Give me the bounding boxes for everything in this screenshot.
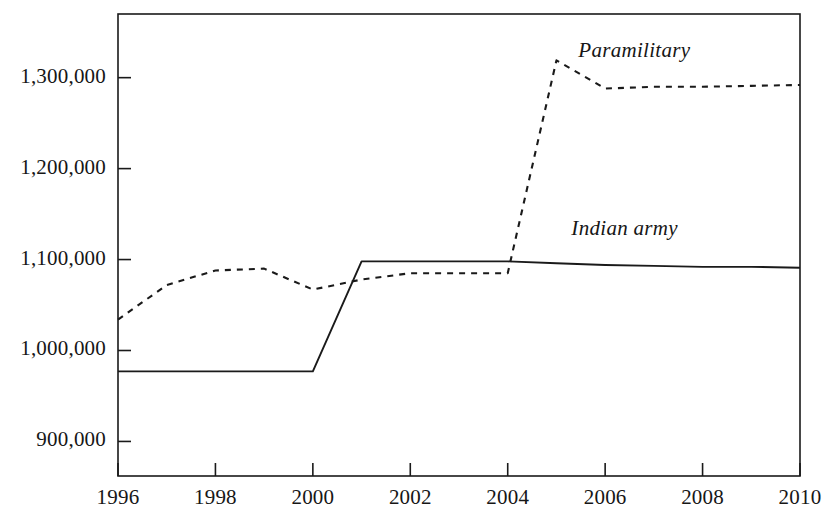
y-axis-ticks: [118, 78, 131, 442]
y-axis-tick-label: 900,000: [36, 427, 106, 452]
x-axis-tick-label: 1998: [175, 485, 255, 510]
data-series-group: [118, 60, 800, 371]
plot-area-border: [118, 14, 800, 476]
x-axis-tick-label: 1996: [78, 485, 158, 510]
chart-container: 900,0001,000,0001,100,0001,200,0001,300,…: [0, 0, 832, 520]
plot-frame: [118, 14, 800, 476]
series-line-indian-army: [118, 261, 800, 371]
series-line-paramilitary: [118, 60, 800, 319]
y-axis-tick-label: 1,200,000: [20, 155, 106, 180]
x-axis-ticks: [118, 463, 800, 476]
x-axis-tick-label: 2010: [760, 485, 832, 510]
x-axis-tick-label: 2008: [663, 485, 743, 510]
x-axis-tick-label: 2000: [273, 485, 353, 510]
y-axis-tick-label: 1,000,000: [20, 336, 106, 361]
y-axis-tick-label: 1,100,000: [20, 246, 106, 271]
x-axis-tick-label: 2004: [468, 485, 548, 510]
y-axis-tick-label: 1,300,000: [20, 64, 106, 89]
x-axis-tick-label: 2006: [565, 485, 645, 510]
series-label-indian-army: Indian army: [571, 216, 678, 241]
x-axis-tick-label: 2002: [370, 485, 450, 510]
series-label-paramilitary: Paramilitary: [578, 38, 690, 63]
line-chart-plot: [0, 0, 832, 520]
